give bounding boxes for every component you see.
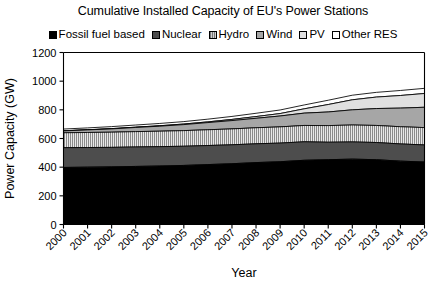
x-tick-label: 2011 [308,226,333,251]
x-tick-label: 2004 [139,226,165,252]
y-tick-label: 400 [38,161,56,173]
chart-container: Cumulative Installed Capacity of EU's Po… [0,0,446,283]
x-tick-label: 2005 [163,226,189,252]
area-band-fossil-fuel-based [64,159,425,224]
x-tick-label: 2000 [43,226,69,252]
chart-y-tick-labels: 020040060080010001200 [32,47,56,231]
x-tick-label: 2003 [115,226,141,252]
y-axis-title: Power Capacity (GW) [3,78,17,199]
x-tick-label: 2012 [332,226,358,252]
y-tick-label: 200 [38,190,56,202]
x-tick-label: 2010 [284,226,310,252]
chart-x-tick-labels: 2000200120022003200420052006200720082009… [43,226,430,252]
x-tick-label: 2002 [91,226,117,252]
x-tick-label: 2008 [236,226,262,252]
x-axis-title: Year [231,266,256,280]
x-tick-label: 2015 [404,226,430,252]
chart-plot: 020040060080010001200 200020012002200320… [0,0,446,283]
x-tick-label: 2013 [356,226,382,252]
y-tick-label: 800 [38,104,56,116]
y-tick-label: 600 [38,133,56,145]
y-tick-label: 1200 [32,47,56,59]
x-tick-label: 2014 [380,226,406,252]
x-tick-label: 2001 [67,226,93,252]
y-tick-label: 0 [50,219,56,231]
x-tick-label: 2006 [188,226,214,252]
x-tick-label: 2007 [212,226,238,252]
y-tick-label: 1000 [32,75,56,87]
x-tick-label: 2009 [260,226,286,252]
chart-areas [64,88,425,224]
